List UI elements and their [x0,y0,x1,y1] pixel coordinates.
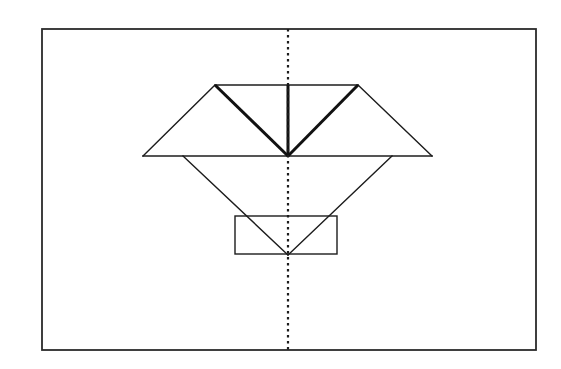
figure-canvas [0,0,561,369]
line-drawing-svg [0,0,561,369]
